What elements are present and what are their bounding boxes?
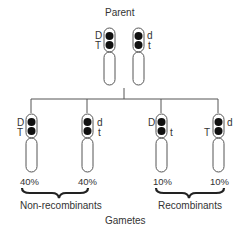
gene-locus-icon [135, 41, 143, 49]
brace-recombinants [156, 188, 224, 198]
gametes-label: Gametes [105, 215, 146, 226]
allele-label: T [204, 127, 210, 138]
parent-title: Parent [105, 7, 134, 18]
allele-label: t [98, 127, 101, 138]
diagram-canvas [0, 0, 243, 229]
gene-locus-icon [106, 32, 114, 40]
gamete-frequency: 40% [20, 176, 39, 187]
gamete-frequency: 40% [78, 176, 97, 187]
allele-label: d [227, 117, 233, 128]
gene-locus-icon [84, 127, 92, 135]
gamete-frequency: 10% [210, 176, 229, 187]
branch-lines [31, 88, 218, 113]
gene-locus-icon [84, 118, 92, 126]
gene-locus-icon [106, 41, 114, 49]
allele-label: T [17, 127, 23, 138]
gamete-frequency: 10% [153, 176, 172, 187]
gene-locus-icon [135, 32, 143, 40]
gene-locus-icon [158, 118, 166, 126]
allele-label: D [148, 117, 155, 128]
allele-label: t [170, 127, 173, 138]
gene-locus-icon [28, 118, 36, 126]
gene-locus-icon [28, 127, 36, 135]
non-recombinants-label: Non-recombinants [20, 200, 102, 211]
gene-locus-icon [215, 118, 223, 126]
gene-locus-icon [215, 127, 223, 135]
allele-label: t [148, 40, 151, 51]
brace-non-recombinants [22, 188, 88, 198]
recombinants-label: Recombinants [158, 200, 222, 211]
allele-label: T [95, 40, 101, 51]
gene-locus-icon [158, 127, 166, 135]
